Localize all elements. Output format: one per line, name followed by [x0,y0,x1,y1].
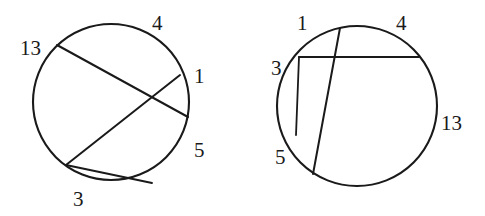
left-chord-4-3 [66,75,180,165]
right-arc-label-1: 1 [297,13,308,34]
left-arc-label-1: 1 [194,66,205,87]
left-arc-label-3: 3 [73,189,84,210]
geometry-diagram-svg [0,0,485,216]
figure-container: 4 13 1 5 3 1 4 3 13 5 [0,0,485,216]
left-circle-outline [33,24,189,180]
right-arc-label-13: 13 [441,113,462,134]
right-circle-outline [277,26,437,186]
right-chord-1-5 [313,28,340,174]
right-circle-group [277,26,437,186]
left-circle-group [33,24,189,183]
right-chord-1b-5 [296,57,299,135]
right-arc-label-5: 5 [275,147,286,168]
left-arc-label-5: 5 [194,140,205,161]
right-arc-label-3: 3 [271,58,282,79]
right-arc-label-4: 4 [396,13,407,34]
left-arc-label-4: 4 [152,13,163,34]
left-chord-13-1 [57,45,188,117]
left-arc-label-13: 13 [20,38,41,59]
